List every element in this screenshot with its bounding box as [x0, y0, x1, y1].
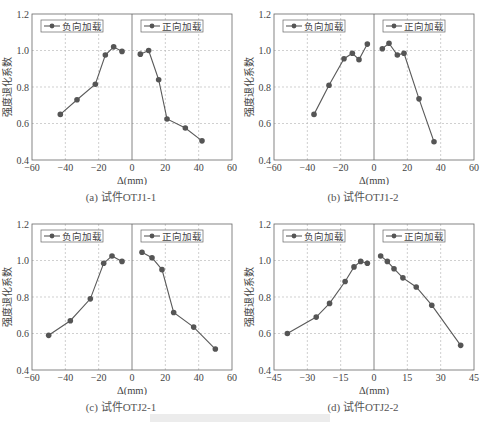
- legend-label: 正向加载: [404, 21, 444, 32]
- data-point: [139, 249, 145, 255]
- data-point: [413, 284, 419, 290]
- x-axis-label: Δ(mm): [359, 385, 390, 395]
- data-point: [285, 331, 291, 337]
- x-tick-label: −20: [91, 372, 107, 383]
- data-point: [156, 77, 162, 83]
- y-tick-label: 0.6: [17, 328, 30, 339]
- data-point: [199, 138, 205, 144]
- data-point: [111, 44, 117, 50]
- data-point: [416, 96, 422, 102]
- data-point: [380, 46, 386, 52]
- legend-marker: [50, 24, 55, 29]
- data-point: [378, 253, 384, 259]
- legend-marker: [292, 234, 297, 239]
- chart-b: −60−40−2002040600.40.60.81.01.2Δ(mm)强度退化…: [242, 0, 484, 185]
- chart-d: −45−30−1501530450.40.60.81.01.2Δ(mm)强度退化…: [242, 210, 484, 395]
- x-tick-label: 40: [436, 162, 446, 173]
- x-tick-label: 0: [130, 372, 135, 383]
- series-line: [60, 47, 122, 115]
- legend-marker: [392, 234, 397, 239]
- data-point: [88, 296, 94, 302]
- data-point: [313, 314, 319, 320]
- panel-caption-d: (d) 试件OTJ2-2: [242, 398, 484, 414]
- x-tick-label: 30: [436, 372, 446, 383]
- data-point: [400, 275, 406, 281]
- series-line: [49, 256, 122, 335]
- data-point: [93, 81, 99, 87]
- y-tick-label: 0.4: [17, 365, 30, 376]
- data-point: [429, 302, 435, 308]
- y-axis-label: 强度退化系数: [1, 267, 13, 327]
- y-axis-label: 强度退化系数: [243, 57, 255, 117]
- x-tick-label: −15: [333, 372, 349, 383]
- legend-marker: [392, 24, 397, 29]
- data-point: [365, 260, 371, 266]
- data-point: [351, 264, 357, 270]
- data-point: [458, 343, 464, 349]
- panel-caption-b: (b) 试件OTJ1-2: [242, 188, 484, 204]
- data-point: [159, 267, 165, 273]
- data-point: [356, 57, 362, 63]
- chart-c: −60−40−2002040600.40.60.81.01.2Δ(mm)强度退化…: [0, 210, 242, 395]
- data-point: [395, 52, 401, 58]
- data-point: [164, 116, 170, 122]
- y-tick-label: 0.6: [17, 118, 30, 129]
- data-point: [146, 48, 152, 54]
- legend-marker: [150, 234, 155, 239]
- data-point: [183, 125, 189, 131]
- legend-label: 正向加载: [162, 231, 202, 242]
- y-tick-label: 1.2: [17, 219, 30, 230]
- x-tick-label: 45: [469, 372, 479, 383]
- x-tick-label: −20: [333, 162, 349, 173]
- panel-b: −60−40−2002040600.40.60.81.01.2Δ(mm)强度退化…: [242, 0, 484, 205]
- data-point: [171, 310, 177, 316]
- y-tick-label: 0.8: [259, 292, 272, 303]
- legend-marker: [292, 24, 297, 29]
- data-point: [401, 50, 407, 56]
- panel-c: −60−40−2002040600.40.60.81.01.2Δ(mm)强度退化…: [0, 210, 242, 415]
- y-tick-label: 0.4: [259, 365, 272, 376]
- x-tick-label: 60: [227, 372, 237, 383]
- legend-marker: [50, 234, 55, 239]
- x-tick-label: 0: [130, 162, 135, 173]
- legend-label: 负向加载: [62, 21, 102, 32]
- data-point: [103, 52, 109, 58]
- x-tick-label: −30: [300, 372, 316, 383]
- y-tick-label: 1.0: [259, 255, 272, 266]
- legend-label: 负向加载: [62, 231, 102, 242]
- series-line: [382, 43, 434, 142]
- y-tick-label: 0.4: [17, 155, 30, 166]
- series-line: [140, 51, 202, 141]
- data-point: [385, 259, 391, 265]
- data-point: [109, 253, 115, 259]
- legend-label: 负向加载: [304, 21, 344, 32]
- x-tick-label: −20: [91, 162, 107, 173]
- chart-a: −60−40−2002040600.40.60.81.01.2Δ(mm)强度退化…: [0, 0, 242, 185]
- data-point: [213, 346, 219, 352]
- x-tick-label: 40: [194, 372, 204, 383]
- data-point: [119, 259, 125, 265]
- x-axis-label: Δ(mm): [117, 175, 148, 185]
- y-axis-label: 强度退化系数: [243, 267, 255, 327]
- legend-label: 正向加载: [404, 231, 444, 242]
- data-point: [58, 112, 64, 118]
- x-axis-label: Δ(mm): [117, 385, 148, 395]
- data-point: [365, 41, 371, 47]
- data-point: [191, 324, 197, 330]
- data-point: [311, 112, 317, 118]
- x-tick-label: −40: [58, 372, 74, 383]
- x-tick-label: 0: [372, 372, 377, 383]
- data-point: [327, 301, 333, 307]
- y-tick-label: 1.0: [259, 45, 272, 56]
- data-point: [341, 56, 347, 62]
- y-tick-label: 1.0: [17, 45, 30, 56]
- y-tick-label: 0.6: [259, 328, 272, 339]
- legend-marker: [150, 24, 155, 29]
- figure: −60−40−2002040600.40.60.81.01.2Δ(mm)强度退化…: [0, 0, 484, 425]
- data-point: [386, 40, 392, 46]
- y-tick-label: 1.2: [259, 219, 272, 230]
- y-tick-label: 0.8: [17, 82, 30, 93]
- x-tick-label: 60: [227, 162, 237, 173]
- x-tick-label: −40: [300, 162, 316, 173]
- series-line: [142, 252, 215, 349]
